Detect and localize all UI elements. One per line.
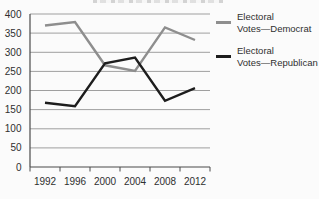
- legend-label-democrat-line2: Votes—Democrat: [237, 23, 311, 35]
- y-tick-label-100: 100: [5, 123, 22, 134]
- democrat-line-swatch: [216, 21, 231, 24]
- legend-item-democrat: Electoral Votes—Democrat: [216, 11, 318, 34]
- series-line-democrat: [45, 22, 195, 71]
- x-tick-label-2012: 2012: [184, 176, 207, 187]
- legend-label-republican-line1: Electoral: [237, 45, 318, 57]
- legend-label-democrat: Electoral Votes—Democrat: [237, 11, 311, 34]
- legend-label-democrat-line1: Electoral: [237, 11, 311, 23]
- x-tick-label-1996: 1996: [64, 176, 87, 187]
- legend-label-republican-line2: Votes—Republican: [237, 57, 318, 69]
- y-tick-label-300: 300: [5, 47, 22, 58]
- y-tick-label-350: 350: [5, 28, 22, 39]
- y-tick-label-400: 400: [5, 9, 22, 20]
- y-tick-label-150: 150: [5, 104, 22, 115]
- x-tick-label-2008: 2008: [154, 176, 177, 187]
- y-tick-label-250: 250: [5, 66, 22, 77]
- legend-item-republican: Electoral Votes—Republican: [216, 45, 318, 68]
- y-tick-label-200: 200: [5, 85, 22, 96]
- y-tick-label-50: 50: [10, 142, 22, 153]
- x-tick-label-1992: 1992: [34, 176, 57, 187]
- x-tick-label-2004: 2004: [124, 176, 147, 187]
- legend: Electoral Votes—Democrat Electoral Votes…: [216, 11, 318, 68]
- y-tick-label-0: 0: [16, 162, 22, 173]
- electoral-votes-figure: 0501001502002503003504001992199620002004…: [0, 0, 319, 199]
- legend-label-republican: Electoral Votes—Republican: [237, 45, 318, 68]
- series-line-republican: [45, 58, 195, 107]
- republican-line-swatch: [216, 55, 231, 58]
- x-tick-label-2000: 2000: [94, 176, 117, 187]
